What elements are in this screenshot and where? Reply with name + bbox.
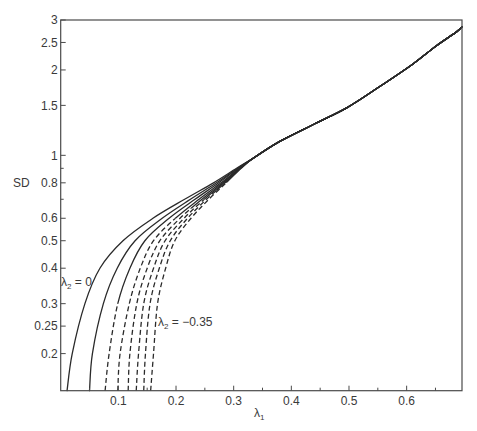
curve-dashed-part (128, 27, 462, 391)
y-tick-label: 1 (51, 149, 58, 163)
curve-solid (90, 27, 462, 391)
x-tick-label: 0.2 (168, 394, 185, 408)
plot-frame (61, 20, 462, 391)
y-tick-label: 0.25 (34, 319, 58, 333)
x-tick-label: 0.5 (341, 394, 358, 408)
x-tick-label: 0.3 (225, 394, 242, 408)
chart: 32.521.510.80.60.50.40.30.250.2 0.10.20.… (0, 0, 477, 431)
curve-lambda2-minus-0.05 (90, 27, 462, 391)
y-tick-label: 0.5 (41, 234, 58, 248)
curve-dashed-part (105, 27, 462, 391)
curve-solid-part (136, 27, 462, 391)
annotation-rest: = 0 (71, 275, 92, 289)
curve-lambda2-minus-0.3 (144, 27, 462, 391)
curve-lambda2-minus-0.25 (136, 27, 462, 391)
x-axis: 0.10.20.30.40.50.6 (90, 386, 436, 408)
annotation-lambda2-minus-035: λ2 = −0.35 (158, 315, 213, 331)
y-tick-label: 0.3 (41, 297, 58, 311)
curve-dashed-part (136, 27, 462, 391)
x-tick-label: 0.6 (398, 394, 415, 408)
curve-solid-part (105, 27, 462, 391)
x-axis-label: λ1 (254, 406, 265, 422)
x-tick-label: 0.4 (283, 394, 300, 408)
curve-dashed-part (144, 27, 462, 391)
curve-lambda2-minus-0.2 (128, 27, 462, 391)
curve-solid-part (144, 27, 462, 391)
curve-lambda2-0 (67, 27, 462, 391)
curve-lambda2-minus-0.1 (105, 27, 462, 391)
curve-group (67, 27, 462, 391)
y-tick-label: 0.8 (41, 176, 58, 190)
annotation-lambda2-zero: λ2 = 0 (61, 275, 92, 291)
x-axis-label-sub: 1 (260, 413, 265, 422)
y-tick-label: 3 (51, 13, 58, 27)
y-tick-label: 1.5 (41, 99, 58, 113)
y-tick-label: 0.6 (41, 211, 58, 225)
annotation-rest: = −0.35 (168, 315, 212, 329)
curve-solid-part (128, 27, 462, 391)
y-tick-label: 0.4 (41, 261, 58, 275)
y-tick-label: 2 (51, 63, 58, 77)
x-tick-label: 0.1 (110, 394, 127, 408)
y-tick-label: 2.5 (41, 36, 58, 50)
curve-solid (67, 27, 462, 391)
y-axis-label: SD (13, 176, 30, 190)
y-tick-label: 0.2 (41, 347, 58, 361)
